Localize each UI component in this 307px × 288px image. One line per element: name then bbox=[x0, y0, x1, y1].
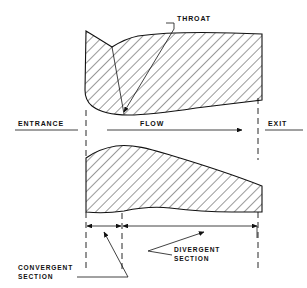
flow-centerline-row: ENTRANCE FLOW EXIT bbox=[15, 120, 303, 130]
convergent-label-line2: SECTION bbox=[18, 273, 53, 280]
divergent-label-line2: SECTION bbox=[174, 255, 209, 262]
divergent-label-line1: DIVERGENT bbox=[174, 246, 220, 253]
dimension-arrows bbox=[87, 226, 257, 238]
entrance-label: ENTRANCE bbox=[18, 120, 64, 127]
convergent-leader-line bbox=[104, 232, 128, 277]
flow-label: FLOW bbox=[140, 120, 164, 127]
upper-nozzle-hatching bbox=[85, 31, 262, 115]
nozzle-diagram-canvas: THROAT ENTRANCE FLOW EXIT bbox=[0, 0, 307, 288]
divergent-callout: DIVERGENT SECTION bbox=[148, 232, 220, 262]
exit-label: EXIT bbox=[268, 120, 287, 127]
nozzle-diagram: THROAT ENTRANCE FLOW EXIT bbox=[0, 0, 307, 288]
lower-nozzle-body bbox=[86, 146, 262, 213]
lower-nozzle-hatching bbox=[86, 146, 262, 213]
divergent-leader-line-lower bbox=[148, 251, 172, 255]
convergent-label-line1: CONVERGENT bbox=[18, 264, 73, 271]
throat-label: THROAT bbox=[177, 15, 211, 22]
upper-nozzle-body bbox=[85, 31, 262, 115]
convergent-callout: CONVERGENT SECTION bbox=[18, 232, 128, 280]
